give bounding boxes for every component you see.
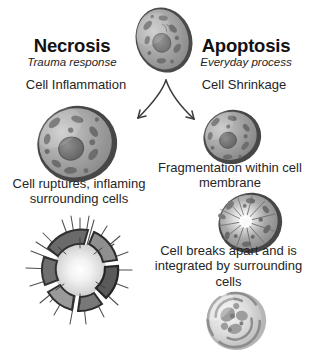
necrosis-step2-label: Cell ruptures, inflaming surrounding cel…	[4, 176, 154, 207]
ruptured-cell-figure	[24, 214, 136, 326]
apoptosis-step3-line1: Cell breaks apart and is	[160, 243, 297, 258]
engulfed-apoptotic-body-figure	[196, 282, 276, 358]
necrosis-subheading: Trauma response	[8, 56, 136, 69]
swollen-cell-figure	[31, 100, 123, 186]
necrosis-step2-line2: surrounding cells	[30, 191, 128, 206]
apoptosis-subheading: Everyday process	[180, 56, 312, 69]
apoptosis-step2-line1: Fragmentation within cell	[158, 160, 302, 175]
necrosis-apoptosis-diagram: Necrosis Trauma response Apoptosis Every…	[0, 0, 317, 361]
apoptosis-heading: Apoptosis	[180, 36, 312, 57]
necrosis-heading: Necrosis	[8, 36, 136, 57]
necrosis-step2-line1: Cell ruptures, inflaming	[13, 176, 146, 191]
shrunken-cell-figure	[196, 104, 268, 168]
